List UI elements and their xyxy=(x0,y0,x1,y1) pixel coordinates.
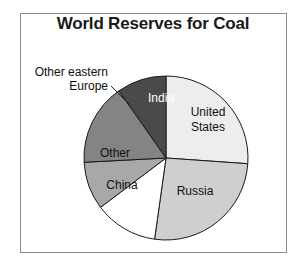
chart-title: World Reserves for Coal xyxy=(0,14,306,34)
chart-frame xyxy=(20,13,287,253)
